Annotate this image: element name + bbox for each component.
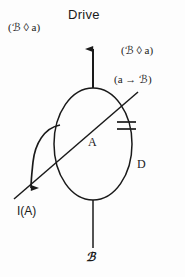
node-right-label: D bbox=[137, 158, 146, 170]
expression-top-right-label: (ℬ ◊ a) bbox=[121, 45, 153, 56]
diagram-canvas: Drive (ℬ ◊ a) (ℬ ◊ a) (a → ℬ) A D I(A) ℬ bbox=[0, 0, 185, 277]
current-label: I(A) bbox=[17, 205, 36, 217]
expression-top-left-label: (ℬ ◊ a) bbox=[8, 22, 40, 33]
source-label: ℬ bbox=[86, 251, 95, 263]
diagonal-line bbox=[14, 92, 138, 199]
node-center-label: A bbox=[88, 136, 97, 148]
drive-label: Drive bbox=[68, 8, 100, 21]
expression-diagonal-label: (a → ℬ) bbox=[114, 74, 152, 85]
